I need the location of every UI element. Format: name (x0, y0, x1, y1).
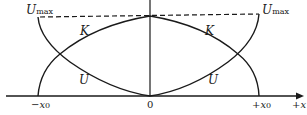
x-axis-label: +x (292, 100, 306, 110)
kinetic-label-right: K (205, 25, 214, 37)
potential-label-right: U (208, 74, 218, 86)
tick-neg-x0: −x0 (31, 100, 50, 110)
kinetic-energy-curve (38, 16, 259, 96)
umax-left-label: Umax (26, 4, 53, 16)
potential-label-left: U (79, 74, 89, 86)
tick-zero: 0 (147, 100, 153, 110)
umax-right-label: Umax (262, 4, 289, 16)
potential-energy-curve (38, 14, 259, 96)
diagram-curves (0, 0, 307, 115)
energy-diagram: Umax Umax K K U U −x0 0 +x0 +x (0, 0, 307, 115)
kinetic-label-left: K (80, 25, 89, 37)
tick-pos-x0: +x0 (252, 100, 271, 110)
